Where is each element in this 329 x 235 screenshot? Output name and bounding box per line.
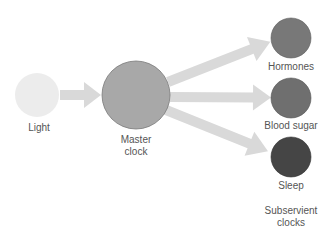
sleep-label: Sleep <box>278 180 304 192</box>
arrow-master-to-blood-sugar <box>170 84 271 111</box>
master-clock-node <box>102 61 170 129</box>
subservient-clocks-line2: clocks <box>265 217 318 229</box>
hormones-node <box>271 18 311 58</box>
subservient-clocks-label: Subservient clocks <box>265 205 318 229</box>
arrow-master-to-hormones <box>163 30 275 95</box>
arrow-light-to-master <box>60 82 101 108</box>
master-clock-label-line2: clock <box>121 146 152 158</box>
light-node <box>15 73 59 117</box>
blood-sugar-label: Blood sugar <box>264 120 317 132</box>
hormones-label: Hormones <box>268 61 314 73</box>
diagram-canvas <box>0 0 329 235</box>
master-clock-label: Master clock <box>121 134 152 158</box>
sleep-node <box>271 137 311 177</box>
master-clock-label-line1: Master <box>121 134 152 146</box>
light-label: Light <box>28 122 50 134</box>
blood-sugar-node <box>271 78 311 118</box>
subservient-clocks-line1: Subservient <box>265 205 318 217</box>
